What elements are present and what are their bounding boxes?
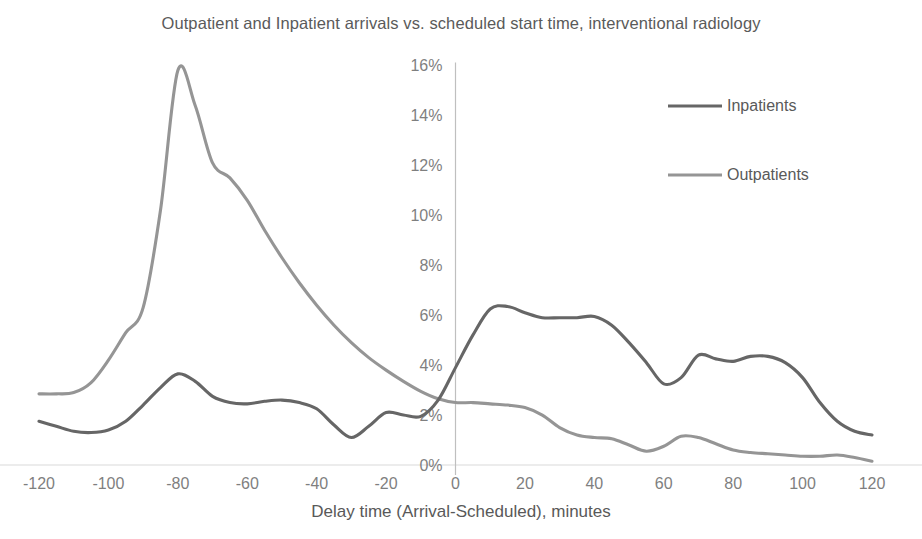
y-tick-label: 8%	[419, 257, 442, 274]
legend-label-inpatients: Inpatients	[727, 97, 796, 114]
x-tick-label: 40	[585, 475, 603, 492]
y-tick-label: 4%	[419, 357, 442, 374]
legend-label-outpatients: Outpatients	[727, 166, 809, 183]
x-tick-label: 100	[789, 475, 816, 492]
chart-container: Outpatient and Inpatient arrivals vs. sc…	[0, 0, 922, 539]
x-tick-labels: -120-100-80-60-40-20020406080100120	[23, 475, 885, 492]
y-tick-label: 10%	[410, 207, 442, 224]
chart-plot-area: 0%2%4%6%8%10%12%14%16% -120-100-80-60-40…	[0, 0, 922, 539]
x-tick-label: -100	[92, 475, 124, 492]
x-tick-label: 0	[451, 475, 460, 492]
x-tick-label: -80	[166, 475, 189, 492]
x-tick-label: 20	[516, 475, 534, 492]
y-tick-label: 16%	[410, 57, 442, 74]
x-tick-label: 80	[724, 475, 742, 492]
x-tick-label: -60	[236, 475, 259, 492]
y-tick-label: 14%	[410, 107, 442, 124]
y-tick-label: 6%	[419, 307, 442, 324]
x-tick-label: -120	[23, 475, 55, 492]
y-tick-label: 12%	[410, 157, 442, 174]
x-tick-label: -20	[375, 475, 398, 492]
x-tick-label: 120	[859, 475, 886, 492]
legend: InpatientsOutpatients	[668, 97, 809, 183]
x-tick-label: 60	[655, 475, 673, 492]
y-tick-label: 0%	[419, 457, 442, 474]
x-tick-label: -40	[305, 475, 328, 492]
x-axis-title: Delay time (Arrival-Scheduled), minutes	[311, 502, 611, 521]
